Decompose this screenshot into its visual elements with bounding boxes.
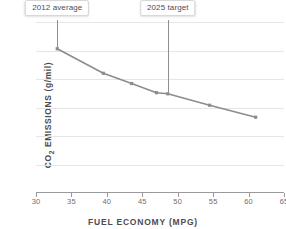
plot-area: 050100150200250300 3035404550556065 2012… [36,22,284,193]
x-tick-mark [249,193,250,197]
co2-emissions-chart: CO2 EMISSIONS (g/mil) FUEL ECONOMY (MPG)… [0,0,286,229]
x-tick-label: 30 [24,197,48,206]
x-tick-mark [213,193,214,197]
x-axis-title: FUEL ECONOMY (MPG) [0,217,286,227]
data-point-marker [130,82,133,85]
x-tick-label: 65 [272,197,286,206]
data-point-marker [254,116,257,119]
annotation-2025-target-stem [168,20,169,94]
data-point-marker [155,91,158,94]
x-tick-label: 50 [166,197,190,206]
x-tick-label: 40 [95,197,119,206]
x-tick-mark [71,193,72,197]
x-tick-mark [284,193,285,197]
x-tick-mark [178,193,179,197]
data-point-marker [102,72,105,75]
x-tick-label: 45 [130,197,154,206]
x-tick-label: 35 [59,197,83,206]
annotation-2025-target-label: 2025 target [140,0,196,16]
x-tick-label: 60 [237,197,261,206]
annotation-2012-average-stem [57,20,58,49]
data-series-line [36,22,284,193]
x-tick-mark [36,193,37,197]
x-tick-mark [142,193,143,197]
annotation-2012-average-label: 2012 average [25,0,89,16]
data-point-marker [208,104,211,107]
series-polyline [57,49,255,117]
x-tick-mark [107,193,108,197]
x-tick-label: 55 [201,197,225,206]
